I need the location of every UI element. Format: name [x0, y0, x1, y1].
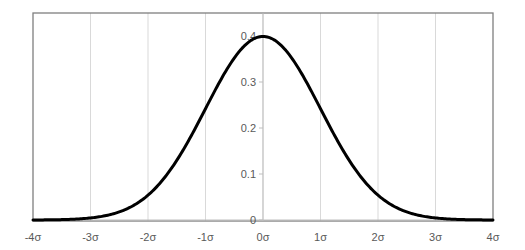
x-tick-label: -2σ	[140, 231, 157, 243]
y-tick-label: 0	[250, 214, 256, 226]
y-tick-label: 0.2	[241, 122, 256, 134]
x-tick-label: -1σ	[197, 231, 214, 243]
x-axis-ticks: -4σ-3σ-2σ-1σ0σ1σ2σ3σ4σ	[25, 231, 500, 243]
x-tick-label: 4σ	[487, 231, 500, 243]
x-tick-label: 0σ	[257, 231, 270, 243]
y-tick-label: 0.1	[241, 168, 256, 180]
y-tick-label: 0.3	[241, 76, 256, 88]
y-axis-ticks: 00.10.20.30.4	[241, 30, 263, 226]
normal-distribution-chart: 00.10.20.30.4 -4σ-3σ-2σ-1σ0σ1σ2σ3σ4σ	[0, 0, 525, 250]
x-tick-label: 2σ	[372, 231, 385, 243]
x-tick-label: 3σ	[429, 231, 442, 243]
x-tick-label: -3σ	[82, 231, 99, 243]
x-tick-label: 1σ	[314, 231, 327, 243]
x-tick-label: -4σ	[25, 231, 42, 243]
